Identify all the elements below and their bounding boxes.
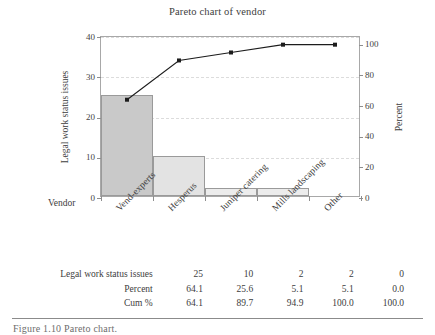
table-cell: 5.1 [253,283,303,298]
y-axis-left-tick [97,37,101,38]
summary-table: Legal work status issues2510220Percent64… [0,268,404,312]
cumulative-marker [177,58,181,62]
x-axis-tick [205,196,206,201]
table-row: Legal work status issues2510220 [0,268,404,283]
y-axis-left-tick [97,118,101,119]
table-row-label: Cum % [0,297,153,312]
y-axis-left-tick-label: 30 [86,73,95,82]
y-axis-right-tick [359,137,363,138]
chart-title: Pareto chart of vendor [0,6,435,17]
cumulative-markers [125,43,337,102]
cumulative-marker [125,98,129,102]
plot-inner: 010203040 020406080100 [101,37,359,196]
table-cell: 25.6 [203,283,253,298]
y-axis-left-tick-label: 10 [86,153,95,162]
table-row-label: Percent [0,283,153,298]
x-axis-tick [257,196,258,201]
cumulative-marker [333,43,337,47]
y-axis-right-tick [359,45,363,46]
y-axis-left-title-text: Legal work status issues [60,70,70,163]
footer-divider [12,318,423,319]
y-axis-left-tick-label: 40 [86,33,95,42]
cumulative-line [101,37,361,198]
x-axis-tick [101,196,102,201]
y-axis-right-tick [359,75,363,76]
table-cell: 100.0 [354,297,404,312]
cumulative-marker [281,43,285,47]
figure-caption: Figure 1.10 Pareto chart. [13,323,117,334]
x-axis-title: Vendor [48,198,75,208]
table-cell: 2 [303,268,353,283]
table-cell: 2 [253,268,303,283]
table-cell: 94.9 [253,297,303,312]
cumulative-marker [229,50,233,54]
y-axis-right-tick-label: 20 [365,163,374,172]
table-row: Percent64.125.65.15.10.0 [0,283,404,298]
y-axis-right-title-text: Percent [394,102,404,131]
y-axis-right-title: Percent [392,36,406,197]
table-cell: 25 [153,268,203,283]
table-cell: 10 [203,268,253,283]
y-axis-left-tick-label: 20 [86,113,95,122]
x-axis-tick [361,196,362,201]
y-axis-left-tick-label: 0 [91,194,96,203]
x-axis-tick [309,196,310,201]
y-axis-left-tick [97,158,101,159]
table-cell: 100.0 [303,297,353,312]
y-axis-right-tick [359,167,363,168]
y-axis-right-tick-label: 0 [365,194,370,203]
table-cell: 0.0 [354,283,404,298]
table-row: Cum %64.189.794.9100.0100.0 [0,297,404,312]
y-axis-right-tick [359,106,363,107]
table-cell: 0 [354,268,404,283]
y-axis-right-tick-label: 40 [365,132,374,141]
y-axis-right-tick-label: 60 [365,102,374,111]
table-cell: 89.7 [203,297,253,312]
y-axis-right-tick-label: 100 [365,40,379,49]
y-axis-left-tick [97,77,101,78]
table-row-label: Legal work status issues [0,268,153,283]
table-cell: 5.1 [303,283,353,298]
y-axis-left-title: Legal work status issues [58,36,72,197]
table-cell: 64.1 [153,297,203,312]
summary-table-body: Legal work status issues2510220Percent64… [0,268,404,312]
y-axis-right-tick-label: 80 [365,71,374,80]
x-axis-tick [153,196,154,201]
table-cell: 64.1 [153,283,203,298]
plot-area: 010203040 020406080100 [100,36,360,197]
figure-container: Pareto chart of vendor Legal work status… [0,0,435,335]
